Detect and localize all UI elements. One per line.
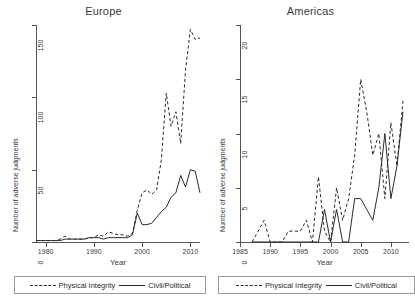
dashed-line-icon [236, 285, 262, 286]
legend-label-civil-political: Civil/Political [148, 281, 190, 290]
legend-label-civil-political: Civil/Political [355, 281, 397, 290]
legend-key-civil-political: Civil/Political [119, 281, 190, 290]
series-line-physical-integrity [252, 79, 403, 242]
series-plot-americas [207, 0, 414, 300]
legend-key-physical-integrity: Physical Integrity [30, 281, 116, 290]
series-line-physical-integrity [36, 29, 200, 240]
legend-label-physical-integrity: Physical Integrity [59, 281, 116, 290]
solid-line-icon [119, 285, 145, 286]
legend-europe: Physical Integrity Civil/Political [14, 276, 206, 294]
legend-key-civil-political: Civil/Political [326, 281, 397, 290]
panel-europe: Europe Number of adverse judgments Year … [0, 0, 207, 300]
series-line-civil-political [36, 170, 200, 241]
series-line-civil-political [252, 112, 403, 242]
solid-line-icon [326, 285, 352, 286]
series-plot-europe [0, 0, 207, 300]
dashed-line-icon [30, 285, 56, 286]
legend-key-physical-integrity: Physical Integrity [236, 281, 322, 290]
legend-label-physical-integrity: Physical Integrity [265, 281, 322, 290]
panel-americas: Americas Number of adverse judgments Yea… [207, 0, 414, 300]
legend-americas: Physical Integrity Civil/Political [218, 276, 415, 294]
